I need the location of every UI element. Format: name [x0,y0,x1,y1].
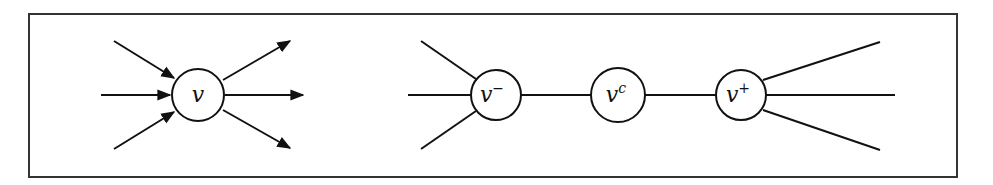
node-v-c-sup: c [618,80,626,96]
node-v-minus-base: v [480,82,493,107]
node-v-label: v [192,82,205,107]
node-splitting-diagram: v v− vc v+ [0,0,993,185]
node-v-plus-base: v [726,82,739,107]
node-v-minus-sup: − [492,80,504,96]
outgoing-edge [223,41,290,80]
incoming-edge [114,112,174,149]
left-edge [421,111,476,149]
incoming-edge [114,41,174,78]
original-node-group: v [101,41,303,149]
node-v-c-base: v [606,82,619,107]
left-edge [421,41,476,79]
split-node-group: v− vc v+ [408,41,895,150]
right-edge [763,42,880,80]
right-edge [763,110,880,150]
node-v-plus-sup: + [738,80,750,96]
outgoing-edge [223,110,290,148]
